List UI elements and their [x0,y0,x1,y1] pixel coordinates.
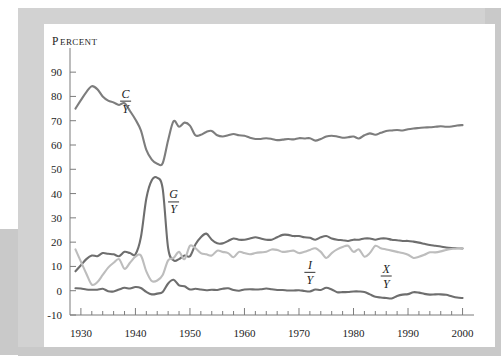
x-axis-tick-labels: 19301940195019601970198019902000 [70,327,474,339]
percent-unit-label: P ERCENT [52,35,98,47]
chart-svg-wrapper: 9080706050403020100-10 19301940195019601… [0,0,501,364]
x-tick-label: 1980 [343,327,366,339]
netexports-label-denominator: Y [383,277,391,291]
axis-lines [70,48,474,315]
x-tick-label: 1940 [124,327,147,339]
y-tick-label: 0 [57,285,63,297]
percent-label-rest: ERCENT [60,37,98,47]
x-tick-label: 2000 [452,327,475,339]
series-line-c-y [75,86,462,165]
y-tick-label: -10 [47,309,62,321]
netexports-label-numerator: X [382,262,391,276]
curve-annotations: CYGYIYXY [120,87,392,291]
x-tick-label: 1960 [233,327,256,339]
percent-label-first: P [52,35,59,47]
y-tick-label: 30 [51,212,63,224]
y-tick-label: 80 [51,90,63,102]
investment-label-numerator: I [307,258,313,272]
x-tick-label: 1970 [288,327,311,339]
investment-label-denominator: Y [307,273,315,287]
y-axis-tick-labels: 9080706050403020100-10 [47,66,62,321]
x-tick-label: 1950 [179,327,202,339]
y-tick-label: 20 [51,236,63,248]
x-tick-label: 1990 [397,327,420,339]
y-tick-label: 60 [51,139,63,151]
y-tick-label: 10 [51,260,63,272]
series-line-x-y [75,280,462,299]
x-tick-label: 1930 [70,327,93,339]
figure-container: 9080706050403020100-10 19301940195019601… [0,0,501,364]
consumption-label-numerator: C [122,87,131,101]
series-line-i-y [75,245,462,285]
y-tick-label: 90 [51,66,63,78]
y-tick-label: 50 [51,163,63,175]
government-label-numerator: G [169,187,178,201]
government-label-denominator: Y [170,202,178,216]
gdp-components-chart: 9080706050403020100-10 19301940195019601… [0,0,501,364]
series-curves [75,86,462,298]
y-tick-label: 40 [51,188,63,200]
y-tick-label: 70 [51,115,63,127]
